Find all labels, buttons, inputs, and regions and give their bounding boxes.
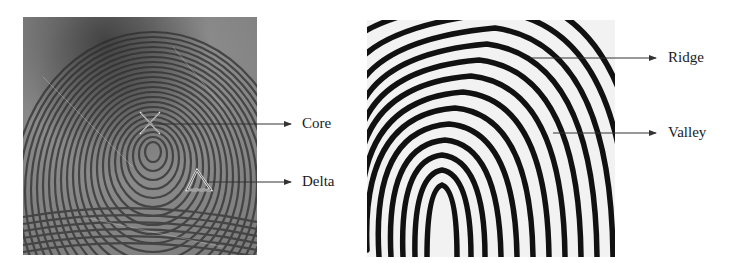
core-label: Core bbox=[302, 116, 331, 131]
fingerprint-ridge-image bbox=[367, 20, 615, 257]
delta-label: Delta bbox=[302, 174, 334, 189]
ridge-label: Ridge bbox=[668, 50, 704, 65]
fingerprint-grayscale-graphic bbox=[23, 17, 257, 255]
valley-label: Valley bbox=[668, 125, 706, 140]
fingerprint-grayscale-image bbox=[23, 17, 257, 255]
fingerprint-ridge-graphic bbox=[367, 20, 615, 257]
